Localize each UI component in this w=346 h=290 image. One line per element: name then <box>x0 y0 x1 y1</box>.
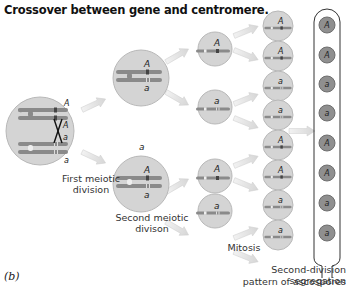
svg-text:a: a <box>278 77 283 86</box>
svg-text:A: A <box>323 139 329 148</box>
svg-text:A: A <box>213 38 220 48</box>
svg-text:a: a <box>139 142 145 152</box>
svg-text:a: a <box>64 156 69 165</box>
svg-text:a: a <box>214 201 220 211</box>
first-division-label: First meiotic division <box>56 173 126 195</box>
svg-text:a: a <box>278 196 283 205</box>
svg-text:a: a <box>214 96 220 106</box>
svg-text:A: A <box>63 99 69 108</box>
svg-text:A: A <box>62 121 68 130</box>
svg-text:A: A <box>277 136 283 145</box>
svg-text:A: A <box>277 17 283 26</box>
svg-text:a: a <box>144 83 150 93</box>
svg-text:a: a <box>325 199 330 208</box>
svg-text:a: a <box>278 226 283 235</box>
second-meiotic-cell-top: A a <box>113 50 169 106</box>
ascus-caption-line2: pattern of ascospores <box>232 276 346 287</box>
mitosis-label: Mitosis <box>224 242 264 253</box>
svg-text:a: a <box>325 229 330 238</box>
first-meiotic-cell: A A a a <box>6 97 74 165</box>
svg-text:a: a <box>278 106 283 115</box>
svg-text:A: A <box>143 59 150 69</box>
svg-text:A: A <box>323 21 329 30</box>
mitosis-products: A A a a A A a a <box>263 11 293 250</box>
svg-text:a: a <box>325 80 330 89</box>
svg-text:a: a <box>144 190 150 200</box>
panel-label: (b) <box>4 270 20 283</box>
svg-text:a: a <box>325 109 330 118</box>
svg-text:A: A <box>277 47 283 56</box>
ascus: A A a a A A a a <box>314 9 340 278</box>
svg-text:A: A <box>213 164 220 174</box>
meiosis-ii-products: A a A a <box>196 32 232 228</box>
second-division-label: Second meiotic divison <box>112 212 192 234</box>
svg-text:A: A <box>277 166 283 175</box>
svg-text:A: A <box>323 169 329 178</box>
svg-text:A: A <box>143 165 150 175</box>
svg-text:a: a <box>63 133 68 142</box>
meiosis-diagram: A A a a A a A a a A a A <box>0 0 346 290</box>
svg-text:A: A <box>323 51 329 60</box>
